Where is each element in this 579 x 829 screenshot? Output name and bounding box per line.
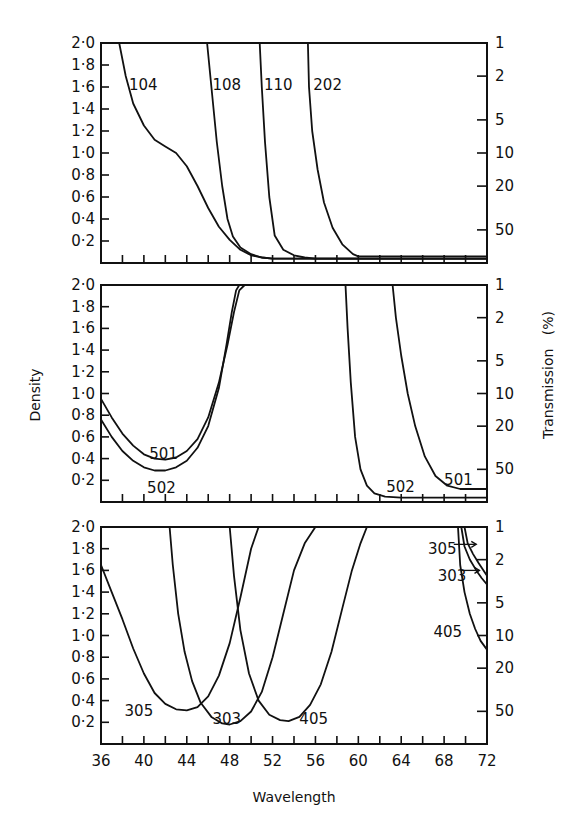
- y-tick-label: 0·6: [71, 188, 95, 206]
- curve-label: 501: [149, 445, 178, 463]
- transmission-tick-label: 1: [495, 276, 505, 294]
- transmission-tick-label: 10: [495, 144, 514, 162]
- y-tick-label: 1·8: [71, 298, 95, 316]
- transmission-tick-label: 1: [495, 518, 505, 536]
- x-axis-label: Wavelength: [252, 789, 335, 805]
- y-tick-label: 0·6: [71, 428, 95, 446]
- y-axis-label-left: Density: [27, 368, 43, 421]
- x-axis-tick-labels: 36404448525660646872: [91, 752, 496, 770]
- x-tick-label: 56: [306, 752, 325, 770]
- x-tick-label: 64: [392, 752, 411, 770]
- density-transmission-chart: 2·01·81·61·41·21·00·80·60·40·21251020501…: [0, 0, 579, 829]
- curve-108: [207, 43, 487, 259]
- curve-110: [260, 43, 487, 259]
- curve-104: [119, 43, 487, 259]
- panel-middle: 2·01·81·61·41·21·00·80·60·40·21251020505…: [71, 276, 514, 502]
- y-tick-label: 0·2: [71, 471, 95, 489]
- transmission-tick-label: 5: [495, 352, 505, 370]
- y-tick-label: 0·6: [71, 670, 95, 688]
- curve-label: 501: [444, 471, 473, 489]
- y-tick-label: 1·0: [71, 627, 95, 645]
- y-tick-label: 1·6: [71, 561, 95, 579]
- transmission-tick-label: 20: [495, 417, 514, 435]
- y-tick-label: 0·8: [71, 406, 95, 424]
- curve-501_long: [393, 285, 487, 489]
- y-tick-label: 1·4: [71, 583, 95, 601]
- transmission-tick-label: 20: [495, 177, 514, 195]
- curve-label: 108: [213, 76, 242, 94]
- curve-label: 202: [313, 76, 342, 94]
- curve-label: 110: [264, 76, 293, 94]
- x-tick-label: 36: [91, 752, 110, 770]
- y-tick-label: 1·0: [71, 385, 95, 403]
- curve-label: 405: [299, 710, 328, 728]
- transmission-tick-label: 2: [495, 309, 505, 327]
- panel-top: 2·01·81·61·41·21·00·80·60·40·21251020501…: [71, 34, 514, 263]
- transmission-tick-label: 1: [495, 34, 505, 52]
- curve-label: 303: [213, 710, 242, 728]
- x-tick-label: 72: [477, 752, 496, 770]
- curve-label: 104: [129, 76, 158, 94]
- y-tick-label: 1·4: [71, 341, 95, 359]
- x-tick-label: 44: [177, 752, 196, 770]
- transmission-tick-label: 50: [495, 702, 514, 720]
- curve-502_long: [346, 285, 488, 498]
- curve-label: 305: [125, 702, 154, 720]
- y-tick-label: 1·6: [71, 319, 95, 337]
- curve-label: 305: [428, 540, 457, 558]
- y-tick-label: 1·2: [71, 605, 95, 623]
- transmission-tick-label: 50: [495, 221, 514, 239]
- transmission-tick-label: 50: [495, 460, 514, 478]
- curve-label: 303: [438, 567, 467, 585]
- x-tick-label: 48: [220, 752, 239, 770]
- plot-frame: [101, 43, 487, 263]
- curve-502: [101, 285, 239, 471]
- y-tick-label: 0·2: [71, 713, 95, 731]
- x-tick-label: 68: [435, 752, 454, 770]
- curve-label: 405: [433, 623, 462, 641]
- plot-frame: [101, 285, 487, 502]
- y-tick-label: 0·4: [71, 210, 95, 228]
- y-tick-label: 1·6: [71, 78, 95, 96]
- transmission-tick-label: 2: [495, 551, 505, 569]
- y-tick-label: 1·8: [71, 56, 95, 74]
- y-tick-label: 2·0: [71, 276, 95, 294]
- y-tick-label: 1·0: [71, 144, 95, 162]
- y-axis-label-right: Transmission (%): [540, 311, 556, 440]
- y-tick-label: 1·4: [71, 100, 95, 118]
- y-tick-label: 2·0: [71, 518, 95, 536]
- curve-label: 502: [147, 479, 176, 497]
- x-tick-label: 40: [134, 752, 153, 770]
- y-tick-label: 1·2: [71, 363, 95, 381]
- y-tick-label: 2·0: [71, 34, 95, 52]
- transmission-tick-label: 10: [495, 627, 514, 645]
- transmission-tick-label: 5: [495, 594, 505, 612]
- y-tick-label: 1·2: [71, 122, 95, 140]
- y-tick-label: 1·8: [71, 540, 95, 558]
- transmission-tick-label: 10: [495, 385, 514, 403]
- x-tick-label: 60: [349, 752, 368, 770]
- transmission-tick-label: 5: [495, 111, 505, 129]
- curve-303: [170, 527, 316, 725]
- transmission-tick-label: 2: [495, 67, 505, 85]
- transmission-tick-label: 20: [495, 659, 514, 677]
- curve-label: 502: [386, 478, 415, 496]
- curve-501: [101, 285, 245, 460]
- y-tick-label: 0·2: [71, 232, 95, 250]
- y-tick-label: 0·8: [71, 648, 95, 666]
- y-tick-label: 0·4: [71, 692, 95, 710]
- panel-bottom: 2·01·81·61·41·21·00·80·60·40·21251020503…: [71, 518, 514, 744]
- y-tick-label: 0·8: [71, 166, 95, 184]
- curve-405_long: [458, 527, 487, 650]
- x-tick-label: 52: [263, 752, 282, 770]
- y-tick-label: 0·4: [71, 450, 95, 468]
- plot-frame: [101, 527, 487, 744]
